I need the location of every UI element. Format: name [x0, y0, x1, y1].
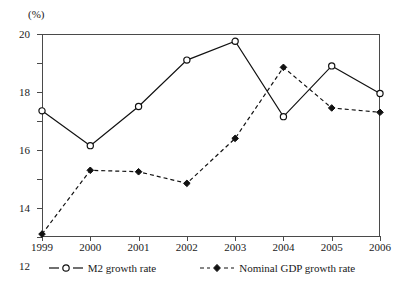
series-plot: [42, 34, 380, 237]
x-axis-tick-label: 1999: [31, 241, 53, 253]
y-axis-tick-label: 20: [19, 28, 30, 40]
x-axis-tick-label: 2005: [321, 241, 343, 253]
data-point: [377, 109, 384, 116]
legend-item-gdp: Nominal GDP growth rate: [200, 262, 355, 274]
y-axis-tick-label: 18: [19, 86, 30, 98]
data-point: [280, 64, 287, 71]
legend-label-m2: M2 growth rate: [88, 262, 156, 274]
legend-label-gdp: Nominal GDP growth rate: [239, 262, 355, 274]
data-point: [328, 105, 335, 112]
x-axis-tick-label: 2000: [79, 241, 101, 253]
y-axis-tick-label: 16: [19, 144, 30, 156]
x-axis-tick-label: 2004: [272, 241, 294, 253]
data-point: [329, 63, 335, 69]
legend-marker-open-circle-icon: [49, 262, 83, 274]
y-axis-unit-label: (%): [28, 8, 45, 20]
series-line-gdp: [42, 67, 380, 234]
data-point: [135, 103, 141, 109]
data-point: [377, 90, 383, 96]
data-point: [184, 57, 190, 63]
line-chart: (%) 68101214161820 199920002001200220032…: [0, 0, 404, 294]
data-point: [135, 168, 142, 175]
x-axis-tick-label: 2003: [224, 241, 246, 253]
data-point: [232, 38, 238, 44]
data-point: [87, 167, 94, 174]
x-axis-tick-label: 2002: [176, 241, 198, 253]
series-line-m2: [42, 41, 380, 145]
plot-area: 68101214161820 1999200020012002200320042…: [42, 34, 380, 237]
x-axis-tick-label: 2006: [369, 241, 391, 253]
data-point: [184, 180, 191, 187]
y-axis-tick-label: 14: [19, 202, 30, 214]
data-point: [280, 114, 286, 120]
legend-item-m2: M2 growth rate: [49, 262, 156, 274]
x-axis-tick-label: 2001: [128, 241, 150, 253]
data-point: [39, 108, 45, 114]
chart-legend: M2 growth rate Nominal GDP growth rate: [0, 262, 404, 274]
legend-marker-filled-diamond-icon: [200, 262, 234, 274]
data-point: [87, 143, 93, 149]
